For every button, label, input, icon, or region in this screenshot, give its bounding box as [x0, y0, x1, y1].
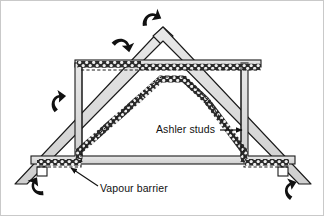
wall-plate-block-left [37, 167, 47, 176]
insulation-eave-left [37, 159, 81, 166]
wall-plate-block-right [278, 167, 288, 176]
figure-canvas: Ashler studs Vapour barrier [0, 0, 324, 216]
label-ashler-studs: Ashler studs [156, 123, 215, 135]
label-vapour-barrier: Vapour barrier [100, 182, 168, 194]
airflow-arrow-left-eave [28, 177, 45, 199]
leader-vapour-barrier [71, 168, 98, 186]
insulation-ceiling-left [77, 61, 141, 67]
airflow-arrow-upper-slope [111, 33, 134, 53]
airflow-arrow-left-slope [46, 90, 67, 113]
insulation-slope-left [79, 94, 143, 162]
airflow-arrow-ridge-vent [139, 9, 162, 27]
airflow-arrow-right-eave [281, 179, 298, 201]
insulation-eave-right [245, 159, 289, 166]
